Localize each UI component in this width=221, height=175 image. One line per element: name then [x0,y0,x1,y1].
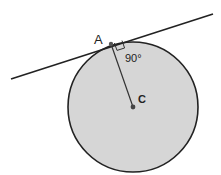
point-a-dot [109,42,113,46]
tangent-diagram: A C 90° [0,0,221,175]
angle-label: 90° [125,52,142,64]
point-c-label: C [138,93,146,105]
point-c-dot [131,105,136,110]
point-a-label: A [94,32,103,47]
